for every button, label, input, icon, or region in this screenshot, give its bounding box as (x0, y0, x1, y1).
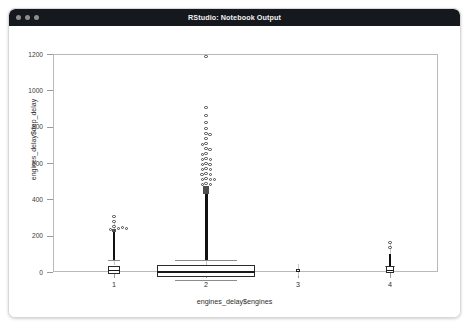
median-4 (386, 270, 394, 271)
y-tick-label-1200: 1200 (8, 51, 43, 58)
y-tick-1200 (47, 54, 53, 55)
plot-frame (53, 54, 438, 272)
y-tick-800 (47, 127, 53, 128)
outlier-point (201, 163, 204, 166)
y-tick-label-0: 0 (8, 269, 43, 276)
outlier-point (201, 178, 204, 181)
outlier-point (201, 143, 204, 146)
plot-canvas: engines_delay$dep_delay 0 200 400 600 80… (9, 26, 460, 317)
x-tick-label-2: 2 (194, 280, 218, 289)
outlier-point (201, 168, 204, 171)
outlier-cluster-4 (389, 254, 391, 266)
outlier-point (208, 148, 211, 151)
y-tick-label-400: 400 (8, 196, 43, 203)
x-tick-label-3: 3 (286, 280, 310, 289)
y-tick-0 (47, 272, 53, 273)
outlier-point-max (204, 55, 207, 58)
window-title: RStudio: Notebook Output (9, 9, 460, 26)
whisker-cap-upper-1 (108, 260, 120, 261)
y-tick-400 (47, 199, 53, 200)
outlier-point (209, 173, 212, 176)
x-axis-title: engines_delay$engines (9, 297, 460, 306)
outlier-point (109, 228, 112, 231)
outlier-cluster-1 (113, 232, 116, 260)
window-titlebar[interactable]: RStudio: Notebook Output (9, 9, 460, 26)
outlier-point (209, 178, 212, 181)
outlier-point (201, 158, 204, 161)
y-tick-600 (47, 163, 53, 164)
outlier-point (201, 183, 204, 186)
x-tick-label-1: 1 (102, 280, 126, 289)
outlier-point (209, 168, 212, 171)
y-tick-label-1000: 1000 (8, 87, 43, 94)
outlier-point (201, 153, 204, 156)
median-2 (157, 271, 255, 273)
y-tick-label-800: 800 (8, 123, 43, 130)
outlier-point (208, 133, 211, 136)
y-tick-label-600: 600 (8, 160, 43, 167)
outlier-band-2 (203, 186, 208, 194)
y-tick-label-200: 200 (8, 232, 43, 239)
outlier-cluster-2 (205, 194, 208, 260)
outlier-point (209, 183, 212, 186)
y-tick-200 (47, 236, 53, 237)
x-tick-label-4: 4 (378, 280, 402, 289)
whisker-cap-lower-2 (175, 280, 237, 281)
outlier-point (209, 158, 212, 161)
median-3 (296, 271, 300, 272)
outlier-band-1 (112, 229, 117, 232)
outlier-point (213, 178, 216, 181)
outlier-point (117, 227, 120, 230)
notebook-output-window: RStudio: Notebook Output engines_delay$d… (8, 8, 461, 318)
median-1 (108, 270, 120, 271)
outlier-point (200, 173, 203, 176)
y-tick-1000 (47, 90, 53, 91)
outlier-point (208, 163, 211, 166)
